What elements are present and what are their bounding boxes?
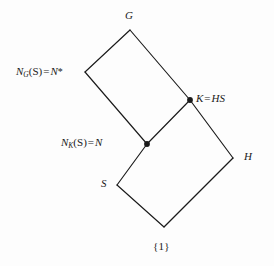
node-label-H: H bbox=[244, 151, 252, 162]
edge-S-to-one bbox=[117, 185, 164, 227]
node-label-K-equals-HS: K=HS bbox=[196, 93, 225, 104]
vertex-dot-N bbox=[144, 141, 150, 147]
edge-G-to-NGS bbox=[85, 30, 130, 72]
k-right: HS bbox=[212, 92, 225, 104]
ng-argument: (S) bbox=[29, 65, 42, 77]
nk-argument: (S) bbox=[73, 136, 86, 148]
ng-star: * bbox=[58, 66, 63, 77]
k-operator: = bbox=[203, 92, 211, 104]
node-label-G: G bbox=[125, 10, 133, 21]
edge-N-to-S bbox=[117, 144, 147, 185]
nk-operator: = bbox=[87, 136, 95, 148]
lattice-edges bbox=[85, 30, 233, 227]
lattice-diagram-figure: G NG(S)=N* K=HS NK(S)=N H S {1} bbox=[0, 0, 274, 266]
edge-G-to-K bbox=[130, 30, 190, 100]
node-label-trivial-subgroup: {1} bbox=[153, 241, 170, 252]
edge-H-to-one bbox=[164, 158, 233, 227]
node-label-normalizer-in-K: NK(S)=N bbox=[61, 137, 102, 150]
lattice-graph bbox=[0, 0, 274, 266]
edge-K-to-N bbox=[147, 100, 190, 144]
edge-K-to-H bbox=[190, 100, 233, 158]
ng-value: N bbox=[50, 65, 57, 77]
edge-NGS-to-N bbox=[85, 72, 147, 144]
node-label-normalizer-in-G: NG(S)=N* bbox=[16, 66, 63, 79]
node-label-S: S bbox=[101, 178, 107, 189]
nk-value: N bbox=[95, 136, 102, 148]
vertex-dot-K bbox=[187, 97, 193, 103]
